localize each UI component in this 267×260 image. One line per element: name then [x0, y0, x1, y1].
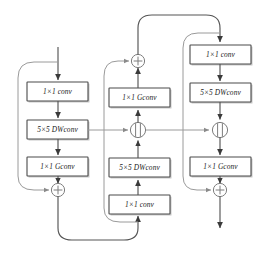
mid-box-3-label: 1×1 Gconv [122, 93, 157, 102]
left-box-1-label: 1×1 conv [43, 87, 73, 96]
diagram-canvas: 1×1 conv 5×5 DWconv 1×1 Gconv 1×1 conv 5… [0, 0, 267, 260]
mid-concat-node[interactable] [130, 122, 145, 137]
right-concat-node[interactable] [212, 122, 227, 137]
right-box-3-label: 1×1 Gconv [203, 162, 238, 171]
network-block-diagram: 1×1 conv 5×5 DWconv 1×1 Gconv 1×1 conv 5… [0, 0, 267, 260]
right-box-1-label: 1×1 conv [206, 50, 236, 59]
left-box-3-label: 1×1 Gconv [40, 162, 75, 171]
left-box-2-label: 5×5 DWconv [37, 125, 78, 134]
mid-box-2-label: 5×5 DWconv [119, 163, 160, 172]
right-box-2-label: 5×5 DWconv [200, 88, 241, 97]
mid-box-1-label: 1×1 conv [125, 200, 155, 209]
